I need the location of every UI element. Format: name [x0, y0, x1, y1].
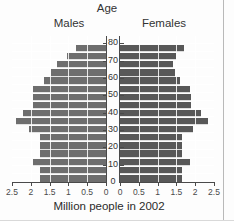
x-tick-left-0.5 [87, 182, 88, 186]
h-gridline [120, 108, 214, 109]
v-gridline-left-1 [68, 36, 69, 182]
y-tick-right-40 [120, 113, 124, 114]
y-tick-right-20 [120, 147, 124, 148]
h-gridline [12, 84, 106, 85]
h-gridline [12, 108, 106, 109]
x-tick-right-1.5 [176, 182, 177, 186]
h-gridline [120, 149, 214, 150]
x-tick-left-2 [31, 182, 32, 186]
h-gridline [12, 67, 106, 68]
h-gridline [120, 84, 214, 85]
y-tick-label-70: 70 [106, 55, 120, 65]
h-gridline [120, 124, 214, 125]
h-gridline [12, 132, 106, 133]
chart-frame: Age Males Females Million people in 2002… [0, 0, 234, 221]
h-gridline [120, 59, 214, 60]
males-bar-panel [12, 36, 106, 182]
v-gridline-right-1 [158, 36, 159, 182]
h-gridline [12, 140, 106, 141]
h-gridline [120, 157, 214, 158]
x-tick-right-0.5 [139, 182, 140, 186]
x-tick-left-2.5 [12, 182, 13, 186]
y-tick-right-10 [120, 165, 124, 166]
v-gridline-left-1.5 [50, 36, 51, 182]
x-axis-line-females [119, 182, 214, 183]
h-gridline [12, 76, 106, 77]
y-tick-right-70 [120, 61, 124, 62]
h-gridline [12, 59, 106, 60]
v-gridline-left-2 [31, 36, 32, 182]
x-tick-right-2 [195, 182, 196, 186]
x-tick-label-right-2.5: 2.5 [203, 187, 225, 197]
h-gridline [120, 92, 214, 93]
h-gridline [12, 100, 106, 101]
y-tick-label-40: 40 [106, 107, 120, 117]
h-gridline [120, 132, 214, 133]
y-tick-label-80: 80 [106, 37, 120, 47]
y-tick-label-20: 20 [106, 141, 120, 151]
plot-area: 2.521.510.5000.511.522.5 010203040506070… [0, 0, 234, 221]
h-gridline [120, 67, 214, 68]
y-tick-right-0 [120, 182, 124, 183]
h-gridline [120, 76, 214, 77]
y-tick-right-60 [120, 78, 124, 79]
y-tick-label-30: 30 [106, 124, 120, 134]
h-gridline [12, 165, 106, 166]
v-gridline-right-0.5 [139, 36, 140, 182]
y-tick-label-10: 10 [106, 159, 120, 169]
v-gridline-right-2 [195, 36, 196, 182]
x-tick-left-1 [68, 182, 69, 186]
h-gridline [120, 173, 214, 174]
v-gridline-right-1.5 [176, 36, 177, 182]
h-gridline [120, 51, 214, 52]
h-gridline [12, 149, 106, 150]
y-tick-label-50: 50 [106, 89, 120, 99]
h-gridline [120, 43, 214, 44]
v-gridline-left-0.5 [87, 36, 88, 182]
h-gridline [12, 124, 106, 125]
y-tick-label-60: 60 [106, 72, 120, 82]
h-gridline [120, 165, 214, 166]
h-gridline [120, 116, 214, 117]
h-gridline [120, 140, 214, 141]
x-tick-right-1 [158, 182, 159, 186]
h-gridline [12, 116, 106, 117]
h-gridline [12, 51, 106, 52]
y-tick-right-30 [120, 130, 124, 131]
x-tick-left-1.5 [50, 182, 51, 186]
h-gridline [12, 43, 106, 44]
females-bar-panel [120, 36, 214, 182]
h-gridline [120, 100, 214, 101]
h-gridline [12, 173, 106, 174]
x-axis-line-males [12, 182, 107, 183]
h-gridline [12, 157, 106, 158]
y-tick-right-80 [120, 43, 124, 44]
y-tick-label-0: 0 [106, 176, 120, 186]
y-tick-right-50 [120, 95, 124, 96]
x-tick-right-2.5 [214, 182, 215, 186]
bar-females-0-5 [120, 175, 182, 182]
h-gridline [12, 92, 106, 93]
